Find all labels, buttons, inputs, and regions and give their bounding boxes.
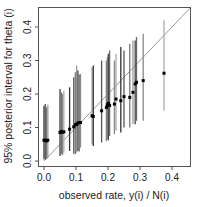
y-tick-label: 0.4 <box>22 20 33 34</box>
y-tick-label: 0.2 <box>22 87 33 101</box>
reference-line <box>44 8 190 161</box>
median-point <box>119 99 122 102</box>
median-point <box>62 130 65 133</box>
x-tick-label: 0.1 <box>69 172 83 183</box>
median-point <box>113 103 116 106</box>
interval-bars <box>44 20 164 159</box>
median-point <box>163 72 166 75</box>
x-tick-label: 0.4 <box>165 172 179 183</box>
y-tick-label: 0.0 <box>22 154 33 168</box>
x-axis: 0.00.10.20.30.4 <box>37 167 179 184</box>
median-point <box>92 115 95 118</box>
median-point <box>100 109 103 112</box>
median-point <box>128 96 131 99</box>
median-point <box>46 139 49 142</box>
median-point <box>142 79 145 82</box>
x-axis-label: observed rate, y(i) / N(i) <box>59 189 169 201</box>
x-tick-label: 0.3 <box>133 172 147 183</box>
median-point <box>115 98 118 101</box>
y-tick-label: 0.1 <box>22 120 33 134</box>
median-point <box>105 106 108 109</box>
x-tick-label: 0.0 <box>37 172 51 183</box>
median-point <box>123 95 126 98</box>
median-point <box>108 104 111 107</box>
median-point <box>79 121 82 124</box>
identity-line <box>44 8 190 161</box>
median-point <box>135 81 138 84</box>
x-tick-label: 0.2 <box>101 172 115 183</box>
median-point <box>131 91 134 94</box>
chart: 0.00.10.20.30.4 0.00.10.20.30.4 observed… <box>0 0 201 207</box>
y-tick-label: 0.3 <box>22 53 33 67</box>
median-point <box>68 128 71 131</box>
y-axis-label: 95% posterior interval for theta (i) <box>2 8 14 163</box>
y-axis: 0.00.10.20.30.4 <box>22 20 39 168</box>
